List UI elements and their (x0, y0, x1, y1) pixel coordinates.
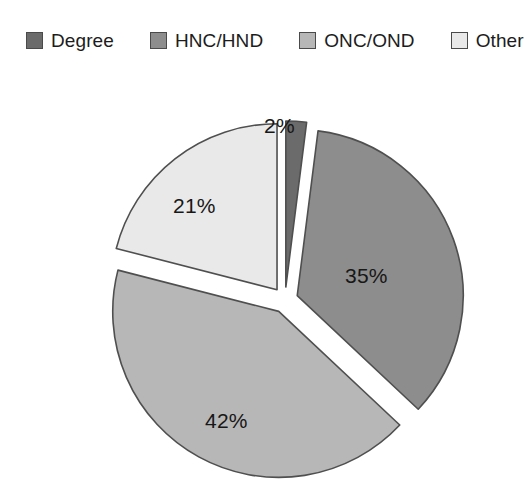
legend-swatch-other (451, 32, 468, 49)
pie-slices (113, 121, 463, 477)
legend-item-other[interactable]: Other (451, 31, 524, 50)
chart-legend: Degree HNC/HND ONC/OND Other (0, 22, 532, 58)
legend-swatch-onc-ond (299, 32, 316, 49)
legend-label-other: Other (476, 31, 524, 50)
pie-label-degree: 2% (264, 115, 295, 136)
pie-label-hnc-hnd: 35% (345, 265, 388, 286)
legend-label-degree: Degree (51, 31, 114, 50)
legend-swatch-degree (26, 32, 43, 49)
pie-chart-plot-area: 2% 35% 42% 21% (0, 62, 532, 504)
pie-label-other: 21% (173, 195, 216, 216)
legend-label-hnc-hnd: HNC/HND (175, 31, 263, 50)
pie-chart-page: Degree HNC/HND ONC/OND Other 2% 35% (0, 0, 532, 504)
pie-label-onc-ond: 42% (205, 410, 248, 431)
legend-item-hnc-hnd[interactable]: HNC/HND (150, 31, 263, 50)
legend-item-onc-ond[interactable]: ONC/OND (299, 31, 414, 50)
legend-item-degree[interactable]: Degree (26, 31, 114, 50)
legend-label-onc-ond: ONC/OND (324, 31, 414, 50)
legend-swatch-hnc-hnd (150, 32, 167, 49)
